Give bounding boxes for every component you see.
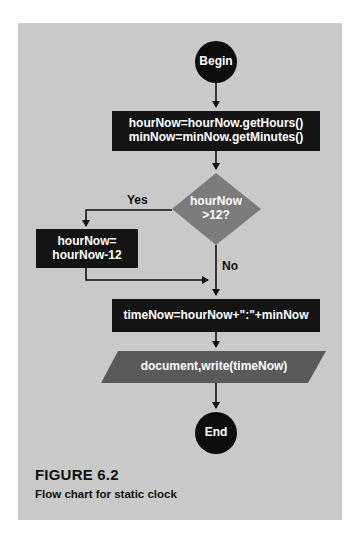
get-time-label: hourNow=hourNow.getHours() minNow=minNow… — [112, 111, 320, 151]
begin-label: Begin — [195, 41, 237, 83]
output-label: document,write(timeNow) — [110, 351, 318, 383]
get-time-line-2: minNow=minNow.getMinutes() — [129, 131, 304, 145]
figure-caption: Flow chart for static clock — [35, 488, 177, 500]
output-text: document,write(timeNow) — [141, 360, 288, 374]
decision-label: hourNow >12? — [176, 190, 256, 228]
yes-edge-label: Yes — [127, 193, 148, 207]
subtract-label: hourNow= hourNow-12 — [36, 229, 138, 268]
subtract-line-1: hourNow= — [58, 235, 117, 249]
decision-line-2: >12? — [202, 209, 230, 223]
end-label: End — [195, 412, 237, 454]
arrow-yes-branch — [86, 210, 172, 226]
subtract-line-2: hourNow-12 — [52, 249, 121, 263]
no-edge-label: No — [222, 259, 238, 273]
flowchart-canvas — [0, 0, 358, 540]
figure-number: FIGURE 6.2 — [35, 466, 119, 483]
format-label: timeNow=hourNow+":"+minNow — [112, 299, 320, 332]
decision-line-1: hourNow — [190, 195, 242, 209]
arrow-subtract-return — [86, 268, 208, 280]
get-time-line-1: hourNow=hourNow.getHours() — [129, 117, 304, 131]
end-text: End — [205, 426, 228, 440]
format-text: timeNow=hourNow+":"+minNow — [123, 309, 308, 323]
begin-text: Begin — [199, 55, 232, 69]
